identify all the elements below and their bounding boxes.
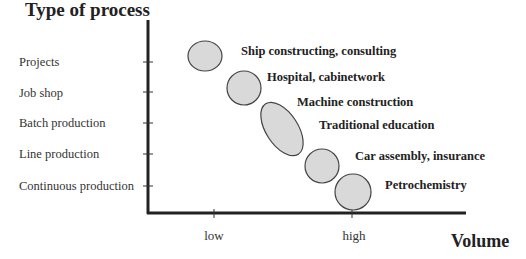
y-label-continuous: Continuous production (19, 179, 135, 193)
bubble-petrochemistry (335, 174, 371, 210)
y-label-line: Line production (19, 147, 100, 161)
item-label-education: Traditional education (319, 118, 434, 132)
y-axis-title: Type of process (25, 0, 150, 20)
y-label-projects: Projects (19, 55, 59, 69)
bubble-hospital (227, 71, 261, 105)
item-label-ship: Ship constructing, consulting (241, 44, 397, 58)
bubble-ship-constructing (188, 41, 222, 71)
x-label-high: high (342, 228, 366, 243)
item-label-car: Car assembly, insurance (355, 149, 485, 163)
y-label-batch: Batch production (19, 116, 106, 130)
x-axis-title: Volume (451, 231, 509, 251)
item-label-machine: Machine construction (297, 95, 413, 109)
process-volume-diagram: Type of process Volume Projects Job shop… (0, 0, 526, 259)
y-label-job-shop: Job shop (19, 86, 63, 100)
x-label-low: low (204, 228, 224, 243)
item-label-hospital: Hospital, cabinetwork (267, 70, 385, 84)
bubble-car-assembly (305, 149, 339, 183)
item-label-petrochemistry: Petrochemistry (385, 178, 467, 192)
